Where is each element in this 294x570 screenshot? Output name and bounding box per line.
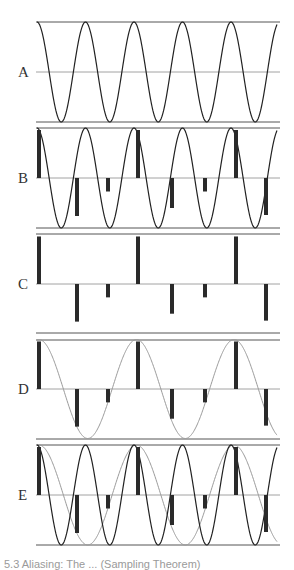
- sample-bar: [170, 178, 174, 208]
- sample-bar: [203, 495, 207, 509]
- sample-bar: [170, 495, 174, 525]
- panel-label: B: [18, 170, 28, 186]
- panel-c: C: [18, 234, 280, 333]
- sample-bar: [264, 495, 268, 532]
- sample-bar: [136, 130, 140, 178]
- panel-label: C: [18, 276, 28, 292]
- sample-bar: [170, 284, 174, 314]
- panel-d: D: [18, 340, 280, 440]
- panel-label: A: [18, 64, 29, 80]
- sample-bar: [106, 178, 110, 192]
- sample-bar: [75, 389, 79, 427]
- sample-bar: [106, 389, 110, 402]
- sample-bar: [136, 236, 140, 284]
- sample-bar: [203, 389, 207, 402]
- panel-e: E: [18, 445, 280, 545]
- sample-bar: [264, 178, 268, 215]
- sample-bar: [37, 130, 41, 178]
- sample-bar: [75, 178, 79, 216]
- sample-bar: [136, 341, 140, 389]
- sample-bar: [37, 447, 41, 495]
- figure-caption: 5.3 Aliasing: The ... (Sampling Theorem): [4, 558, 200, 570]
- panel-b: B: [18, 128, 280, 228]
- sample-bar: [234, 130, 238, 178]
- sample-bar: [234, 341, 238, 389]
- sample-bar: [37, 236, 41, 284]
- sample-bar: [203, 178, 207, 192]
- panel-label: E: [18, 487, 27, 503]
- sample-bar: [75, 495, 79, 533]
- sample-bar: [264, 389, 268, 426]
- sample-bar: [170, 389, 174, 419]
- sample-bar: [136, 447, 140, 495]
- sample-bar: [106, 284, 110, 297]
- sample-bar: [75, 284, 79, 322]
- sample-bar: [264, 284, 268, 321]
- sample-bar: [234, 236, 238, 284]
- sample-bar: [234, 447, 238, 495]
- panels-group: ABCDE: [18, 22, 280, 545]
- sample-bar: [203, 284, 207, 297]
- panel-a: A: [18, 22, 280, 122]
- panel-label: D: [18, 381, 29, 397]
- sample-bar: [37, 341, 41, 389]
- sample-bar: [106, 495, 110, 509]
